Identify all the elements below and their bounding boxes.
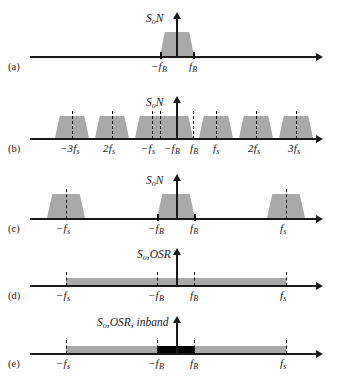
tick-label-e-0-sub: s bbox=[67, 362, 70, 371]
tick-mark-c-0 bbox=[66, 189, 67, 219]
tick-label-d-0-sub: s bbox=[67, 294, 70, 303]
y-axis-label-a-tail: N bbox=[156, 12, 164, 24]
amplitude-axis-a bbox=[176, 18, 178, 56]
tick-label-c-2-sub: B bbox=[193, 227, 198, 236]
tick-label-b-2-main: −f bbox=[141, 142, 152, 154]
amplitude-axis-d bbox=[176, 254, 178, 285]
tick-mark-a-1 bbox=[193, 52, 195, 59]
tick-label-b-7-main: 3f bbox=[288, 142, 297, 154]
amplitude-arrowhead-b bbox=[173, 96, 181, 103]
tick-label-e-2: fB bbox=[190, 357, 198, 371]
tick-label-b-6-sub: s bbox=[257, 147, 260, 156]
tick-label-c-3: fs bbox=[280, 222, 287, 236]
panel-d: So,OSR −fs −fB fB fs (d) bbox=[0, 242, 348, 310]
tick-label-e-0-main: −f bbox=[56, 357, 67, 369]
axis-arrowhead-c bbox=[316, 215, 323, 223]
panel-a: SoN −fB fB (a) bbox=[0, 0, 348, 85]
tick-label-b-6: 2fs bbox=[248, 142, 260, 156]
y-axis-label-d-tail: ,OSR bbox=[147, 248, 171, 260]
tick-mark-a-0 bbox=[160, 52, 162, 59]
panel-c: SoN −fs −fB fB fs (c) bbox=[0, 165, 348, 242]
amplitude-axis-b bbox=[176, 102, 178, 138]
tick-label-c-1-sub: B bbox=[159, 227, 164, 236]
tick-mark-b-7 bbox=[296, 111, 297, 139]
tick-label-c-1: −fB bbox=[148, 222, 164, 236]
tick-label-a-0-main: −f bbox=[151, 60, 162, 72]
tick-mark-c-3 bbox=[286, 189, 287, 219]
tick-label-e-3: fs bbox=[280, 357, 287, 371]
axis-arrowhead-a bbox=[316, 53, 323, 61]
tick-mark-b-4 bbox=[193, 111, 194, 139]
tick-label-e-1-main: −f bbox=[148, 357, 159, 369]
tick-mark-b-2 bbox=[152, 111, 153, 139]
panel-letter-b: (b) bbox=[8, 143, 20, 154]
tick-label-a-0-sub: B bbox=[162, 65, 167, 74]
panel-letter-e: (e) bbox=[8, 358, 20, 369]
tick-label-e-2-sub: B bbox=[193, 362, 198, 371]
y-axis-label-e-tail: ,OSR, inband bbox=[107, 316, 169, 328]
tick-mark-d-1 bbox=[157, 272, 158, 286]
panel-b: SoN −3fs 2fs −fs −fB fB fs 2fs 3fs (b) bbox=[0, 85, 348, 165]
axis-arrowhead-b bbox=[316, 135, 323, 143]
tick-label-c-3-sub: s bbox=[283, 227, 286, 236]
tick-label-d-3-sub: s bbox=[283, 294, 286, 303]
tick-mark-b-3 bbox=[160, 111, 161, 139]
axis-arrowhead-d bbox=[316, 282, 323, 290]
tick-label-c-0: −fs bbox=[56, 222, 70, 236]
tick-label-b-2-sub: s bbox=[152, 147, 155, 156]
tick-label-b-0-sub: s bbox=[77, 147, 80, 156]
frequency-axis-e bbox=[30, 353, 318, 355]
tick-mark-b-0 bbox=[72, 111, 73, 139]
tick-mark-c-2 bbox=[194, 214, 196, 221]
tick-label-d-0-main: −f bbox=[56, 289, 67, 301]
tick-label-b-2: −fs bbox=[141, 142, 155, 156]
y-axis-label-b-tail: N bbox=[156, 96, 164, 108]
amplitude-arrowhead-e bbox=[173, 316, 181, 323]
frequency-axis-c bbox=[30, 218, 318, 220]
panel-letter-d: (d) bbox=[8, 290, 20, 301]
tick-label-b-3: −fB bbox=[164, 142, 180, 156]
tick-label-b-5-sub: s bbox=[216, 147, 219, 156]
tick-mark-d-2 bbox=[194, 272, 195, 286]
tick-mark-d-3 bbox=[286, 272, 287, 286]
tick-label-b-1-sub: s bbox=[112, 147, 115, 156]
y-axis-label-e: So,OSR, inband bbox=[97, 316, 168, 330]
tick-label-c-1-main: −f bbox=[148, 222, 159, 234]
amplitude-axis-e bbox=[176, 322, 178, 353]
tick-label-c-0-main: −f bbox=[56, 222, 67, 234]
y-axis-label-d: So,OSR bbox=[137, 248, 171, 262]
tick-label-b-7: 3fs bbox=[288, 142, 300, 156]
tick-mark-e-3 bbox=[286, 340, 287, 354]
frequency-axis-a bbox=[30, 56, 318, 58]
tick-mark-b-5 bbox=[216, 111, 217, 139]
tick-label-b-1: 2fs bbox=[103, 142, 115, 156]
tick-label-a-1-sub: B bbox=[192, 65, 197, 74]
amplitude-arrowhead-c bbox=[173, 174, 181, 181]
tick-label-e-1-sub: B bbox=[159, 362, 164, 371]
tick-label-b-0: −3fs bbox=[60, 142, 80, 156]
y-axis-label-a: SoN bbox=[146, 12, 163, 26]
tick-label-b-0-main: −3f bbox=[60, 142, 77, 154]
y-axis-label-c: SoN bbox=[146, 174, 163, 188]
tick-label-c-0-sub: s bbox=[67, 227, 70, 236]
tick-mark-e-0 bbox=[66, 340, 67, 354]
tick-label-c-2: fB bbox=[190, 222, 198, 236]
tick-mark-b-6 bbox=[256, 111, 257, 139]
amplitude-arrowhead-a bbox=[173, 12, 181, 19]
axis-arrowhead-e bbox=[316, 350, 323, 358]
y-axis-label-c-tail: N bbox=[156, 174, 164, 186]
tick-label-b-3-main: −f bbox=[164, 142, 175, 154]
tick-label-e-0: −fs bbox=[56, 357, 70, 371]
tick-label-b-7-sub: s bbox=[297, 147, 300, 156]
tick-label-e-1: −fB bbox=[148, 357, 164, 371]
tick-mark-c-1 bbox=[157, 214, 159, 221]
tick-label-b-1-main: 2f bbox=[103, 142, 112, 154]
frequency-axis-d bbox=[30, 285, 318, 287]
tick-label-b-4: fB bbox=[190, 142, 198, 156]
tick-label-d-1-sub: B bbox=[159, 294, 164, 303]
tick-label-d-1: −fB bbox=[148, 289, 164, 303]
panel-e: So,OSR, inband −fs −fB fB fs (e) bbox=[0, 310, 348, 387]
tick-label-d-3: fs bbox=[280, 289, 287, 303]
tick-label-b-5: fs bbox=[213, 142, 220, 156]
frequency-axis-b bbox=[30, 138, 318, 140]
